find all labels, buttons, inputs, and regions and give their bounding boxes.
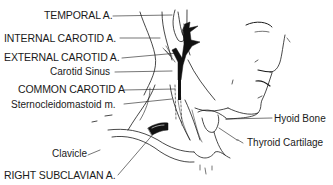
label-sternocleidomastoid: Sternocleidomastoid m. — [11, 100, 116, 110]
label-thyroid-cartilage: Thyroid Cartilage — [247, 138, 323, 148]
label-carotid-sinus: Carotid Sinus — [50, 67, 110, 77]
label-right-subclavian-artery: RIGHT SUBCLAVIAN A. — [4, 170, 116, 181]
face-profile — [195, 22, 290, 119]
carotid-arteries — [172, 22, 200, 100]
subclavian-artery — [148, 123, 168, 135]
neck-structures — [92, 46, 230, 174]
label-common-carotid-artery: COMMON CAROTID A — [18, 84, 125, 95]
label-hyoid-bone: Hyoid Bone — [274, 114, 326, 124]
label-clavicle: Clavicle — [52, 149, 87, 159]
label-external-carotid-artery: EXTERNAL CAROTID A. — [4, 52, 120, 63]
neck-anatomy-diagram: TEMPORAL A. INTERNAL CAROTID A. EXTERNAL… — [0, 0, 333, 185]
label-internal-carotid-artery: INTERNAL CAROTID A. — [4, 33, 116, 44]
label-temporal-artery: TEMPORAL A. — [44, 10, 113, 21]
